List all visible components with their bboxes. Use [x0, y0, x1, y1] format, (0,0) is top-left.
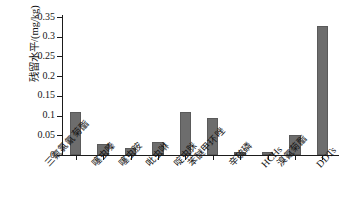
bar [317, 26, 329, 155]
y-tick-label: 0.15 [38, 89, 56, 101]
x-tick [76, 156, 77, 160]
y-tick-label: 0.3 [43, 30, 56, 42]
y-tick-label: 0.25 [38, 50, 56, 62]
bar-chart-figure: 残留水平/(mg/kg) 00.050.10.150.20.250.30.35 … [0, 0, 345, 217]
y-tick-label: 0.2 [43, 70, 56, 82]
y-tick-label: 0.1 [43, 109, 56, 121]
y-tick-label: 0.05 [38, 129, 56, 141]
x-tick [213, 156, 214, 160]
y-tick-label: 0.35 [38, 11, 56, 23]
bar-series [62, 17, 336, 155]
